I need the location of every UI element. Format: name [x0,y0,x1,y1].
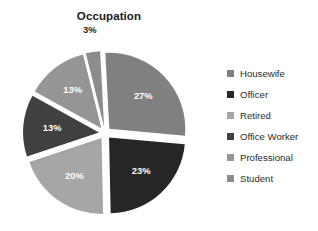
pie-plot-area: 27%23%20%13%13%3% [0,22,218,231]
legend-item[interactable]: Student [227,168,318,189]
legend-swatch-icon [227,154,234,161]
chart-title: Occupation [0,9,218,23]
pie-svg: 27%23%20%13%13%3% [0,22,218,231]
pie-slice-label: 23% [132,165,151,176]
legend-swatch-icon [227,91,234,98]
legend-item-label: Professional [240,152,293,163]
pie-slice-label: 27% [134,90,153,101]
legend-item[interactable]: Retired [227,105,318,126]
legend-swatch-icon [227,133,234,140]
pie-slice-label: 3% [83,24,97,35]
legend-item-label: Officer [240,89,268,100]
legend-item-label: Housewife [240,68,285,79]
legend-item-label: Retired [240,110,271,121]
chart-legend: HousewifeOfficerRetiredOffice WorkerProf… [227,63,318,189]
pie-slice-label: 13% [43,122,62,133]
pie-slice-label: 13% [63,84,82,95]
legend-item-label: Student [240,173,273,184]
legend-swatch-icon [227,175,234,182]
legend-item[interactable]: Officer [227,84,318,105]
legend-swatch-icon [227,70,234,77]
legend-item[interactable]: Office Worker [227,126,318,147]
legend-swatch-icon [227,112,234,119]
legend-item[interactable]: Housewife [227,63,318,84]
pie-slice-label: 20% [65,170,84,181]
legend-item[interactable]: Professional [227,147,318,168]
pie-chart-figure: Occupation 27%23%20%13%13%3% HousewifeOf… [0,0,318,231]
legend-item-label: Office Worker [240,131,298,142]
